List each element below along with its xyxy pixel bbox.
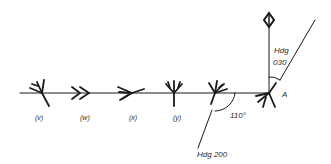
heading-030-label-line1: Hdg [274, 47, 289, 55]
symbol-a-icon [256, 83, 276, 107]
label-x: (x) [129, 114, 137, 121]
diagram-drawing [0, 0, 331, 164]
heading-200-label: Hdg 200 [197, 151, 227, 159]
label-v: (v) [35, 114, 43, 121]
north-diamond-icon [264, 13, 274, 27]
point-a-label: A [282, 91, 287, 99]
label-y: (y) [173, 114, 181, 121]
angle-030-arc [269, 77, 280, 80]
diagram-canvas: (v) (w) (x) (y) A 110° Hdg 200 Hdg 030 [0, 0, 331, 164]
angle-110-arc [215, 93, 235, 111]
angle-110-label: 110° [230, 112, 246, 120]
label-w: (w) [80, 114, 90, 121]
heading-200-line [198, 110, 212, 148]
heading-030-label-line2: 030 [273, 59, 286, 67]
